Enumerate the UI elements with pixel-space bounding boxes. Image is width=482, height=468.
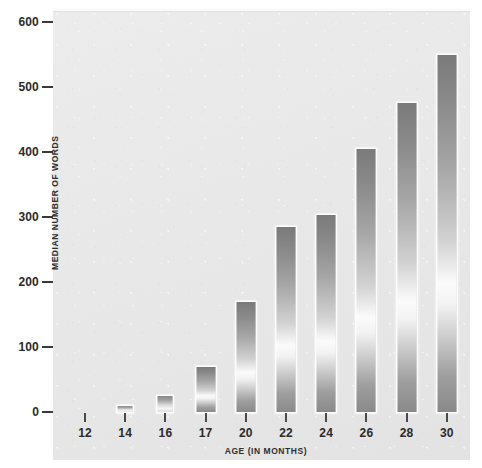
x-tick-mark	[124, 413, 126, 422]
x-tick-label: 12	[78, 426, 92, 440]
bar-chart: 0100200300400500600 MEDIAN NUMBER OF WOR…	[0, 0, 482, 468]
y-axis-title: MEDIAN NUMBER OF WORDS	[50, 136, 60, 270]
x-tick-mark	[365, 413, 367, 422]
x-tick-label: 22	[279, 426, 293, 440]
bar	[158, 396, 173, 412]
y-tick-label: 400	[5, 145, 39, 159]
x-tick-mark	[84, 413, 86, 422]
y-tick-mark	[42, 411, 53, 413]
plot-area	[53, 8, 470, 460]
x-tick-mark	[325, 413, 327, 422]
x-tick-label: 30	[440, 426, 454, 440]
y-tick-mark	[42, 281, 53, 283]
y-tick-label: 100	[5, 340, 39, 354]
x-tick-mark	[164, 413, 166, 422]
bar	[317, 215, 336, 412]
y-tick-label: 300	[5, 210, 39, 224]
bar	[196, 367, 215, 413]
x-axis-baseline	[53, 8, 470, 11]
bar	[118, 406, 133, 413]
x-tick-mark	[205, 413, 207, 422]
x-tick-mark	[406, 413, 408, 422]
x-axis-title: AGE (IN MONTHS)	[225, 446, 307, 456]
x-tick-label: 26	[360, 426, 374, 440]
bar	[397, 103, 416, 412]
y-tick-label: 200	[5, 275, 39, 289]
x-tick-label: 14	[118, 426, 132, 440]
x-tick-label: 20	[239, 426, 253, 440]
y-tick-label: 600	[5, 15, 39, 29]
x-tick-mark	[285, 413, 287, 422]
x-tick-label: 24	[319, 426, 333, 440]
y-tick-label: 0	[5, 405, 39, 419]
x-tick-label: 28	[400, 426, 414, 440]
x-tick-mark	[245, 413, 247, 422]
x-tick-label: 16	[159, 426, 173, 440]
bar	[236, 302, 255, 413]
y-tick-mark	[42, 86, 53, 88]
y-tick-label: 500	[5, 80, 39, 94]
bar	[357, 149, 376, 412]
x-tick-label: 17	[199, 426, 213, 440]
bar	[437, 55, 456, 413]
y-tick-mark	[42, 346, 53, 348]
x-tick-mark	[446, 413, 448, 422]
bar	[277, 227, 296, 412]
y-tick-mark	[42, 21, 53, 23]
